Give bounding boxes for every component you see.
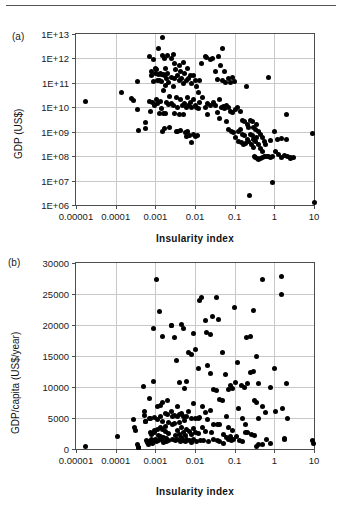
panel-b-y-axis-title: GDP/capita (US$/year) bbox=[10, 332, 21, 434]
y-axis-tick bbox=[72, 132, 76, 133]
data-point bbox=[284, 381, 289, 386]
data-point bbox=[214, 295, 219, 300]
data-point bbox=[167, 94, 172, 99]
data-point bbox=[217, 116, 222, 121]
data-point bbox=[196, 90, 201, 95]
data-point bbox=[222, 69, 227, 74]
y-axis-tick bbox=[72, 418, 76, 419]
data-point bbox=[310, 131, 315, 136]
y-axis-tick-label: 1E+11 bbox=[42, 77, 69, 88]
data-point bbox=[119, 90, 124, 95]
x-axis-tick-label: 0.0001 bbox=[101, 455, 130, 466]
x-axis-tick bbox=[76, 205, 77, 209]
data-point bbox=[254, 122, 259, 127]
data-point bbox=[210, 56, 215, 61]
data-point bbox=[185, 66, 190, 71]
data-point bbox=[193, 347, 198, 352]
data-point bbox=[174, 358, 179, 363]
x-axis-tick bbox=[274, 449, 275, 453]
data-point bbox=[197, 100, 202, 105]
data-point bbox=[199, 295, 204, 300]
data-point bbox=[279, 292, 284, 297]
data-point bbox=[217, 422, 222, 427]
data-point bbox=[147, 396, 152, 401]
data-point bbox=[194, 84, 199, 89]
data-point bbox=[254, 400, 259, 405]
data-point bbox=[205, 363, 210, 368]
data-point bbox=[256, 416, 261, 421]
data-point bbox=[169, 323, 174, 328]
x-axis-tick bbox=[116, 449, 117, 453]
data-point bbox=[221, 441, 226, 446]
data-point bbox=[251, 369, 256, 374]
data-point bbox=[213, 103, 218, 108]
panel-a-plot-area: 1E+061E+071E+081E+091E+101E+111E+121E+13… bbox=[75, 33, 315, 206]
x-axis-tick bbox=[274, 205, 275, 209]
x-axis-tick-label: 0.01 bbox=[186, 211, 205, 222]
page-top-rule bbox=[6, 5, 336, 6]
data-point bbox=[206, 439, 211, 444]
data-point bbox=[209, 430, 214, 435]
x-axis-tick bbox=[116, 205, 117, 209]
data-point bbox=[83, 99, 88, 104]
x-axis-tick-label: 1 bbox=[272, 455, 277, 466]
data-point bbox=[224, 119, 229, 124]
data-point bbox=[284, 112, 289, 117]
data-point bbox=[167, 125, 172, 130]
data-point bbox=[220, 350, 225, 355]
data-point bbox=[171, 52, 176, 57]
y-axis-tick-label: 10000 bbox=[43, 382, 69, 393]
data-point bbox=[248, 334, 253, 339]
y-axis-tick-label: 1E+13 bbox=[41, 29, 69, 40]
data-point bbox=[215, 77, 220, 82]
x-axis-tick-label: 0.01 bbox=[186, 455, 205, 466]
gridline-vertical bbox=[195, 34, 196, 205]
data-point bbox=[238, 109, 243, 114]
data-point bbox=[279, 136, 284, 141]
x-axis-tick-label: 10 bbox=[309, 455, 320, 466]
data-point bbox=[131, 417, 136, 422]
x-axis-tick bbox=[314, 205, 315, 209]
panel-a-label: (a) bbox=[12, 31, 24, 42]
data-point bbox=[203, 429, 208, 434]
data-point bbox=[266, 75, 271, 80]
x-axis-tick bbox=[314, 449, 315, 453]
data-point bbox=[172, 335, 177, 340]
data-point bbox=[141, 384, 146, 389]
data-point bbox=[273, 409, 278, 414]
data-point bbox=[252, 433, 257, 438]
data-point bbox=[191, 331, 196, 336]
y-axis-tick bbox=[72, 294, 76, 295]
data-point bbox=[157, 309, 162, 314]
panel-a-x-axis-title: Insularity index bbox=[75, 233, 315, 244]
data-point bbox=[256, 381, 261, 386]
data-point bbox=[200, 404, 205, 409]
data-point bbox=[184, 379, 189, 384]
data-point bbox=[185, 95, 190, 100]
y-axis-tick-label: 20000 bbox=[43, 320, 69, 331]
gridline-vertical bbox=[274, 34, 275, 205]
data-point bbox=[263, 142, 268, 147]
data-point bbox=[161, 88, 166, 93]
x-axis-tick-label: 10 bbox=[309, 211, 320, 222]
x-axis-tick bbox=[235, 205, 236, 209]
data-point bbox=[158, 99, 163, 104]
data-point bbox=[291, 155, 296, 160]
data-point bbox=[208, 332, 213, 337]
x-axis-tick-label: 1 bbox=[272, 211, 277, 222]
data-point bbox=[312, 200, 317, 205]
data-point bbox=[151, 326, 156, 331]
data-point bbox=[182, 386, 187, 391]
data-point bbox=[160, 334, 165, 339]
gridline-vertical bbox=[116, 34, 117, 205]
data-point bbox=[83, 444, 88, 449]
data-point bbox=[245, 381, 250, 386]
data-point bbox=[175, 404, 180, 409]
x-axis-tick-label: 0.00001 bbox=[59, 211, 93, 222]
panel-b-x-axis-title: Insularity index bbox=[75, 486, 315, 497]
y-axis-tick-label: 1E+07 bbox=[41, 175, 69, 186]
data-point bbox=[165, 398, 170, 403]
data-point bbox=[172, 61, 177, 66]
data-point bbox=[143, 126, 148, 131]
data-point bbox=[181, 326, 186, 331]
